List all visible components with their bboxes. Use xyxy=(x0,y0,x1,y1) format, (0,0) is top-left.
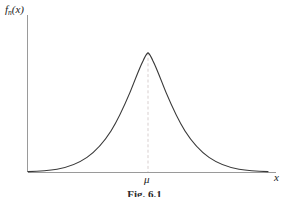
x-axis-label: x xyxy=(274,172,279,183)
figure-container: fn(x) x μ Fig. 6.1 xyxy=(0,0,289,197)
y-axis-label-argument: (x) xyxy=(12,3,24,15)
y-axis-label: fn(x) xyxy=(5,4,24,16)
mean-tick-label: μ xyxy=(144,174,150,185)
figure-caption: Fig. 6.1 xyxy=(0,189,289,197)
normal-distribution-plot xyxy=(0,0,289,197)
